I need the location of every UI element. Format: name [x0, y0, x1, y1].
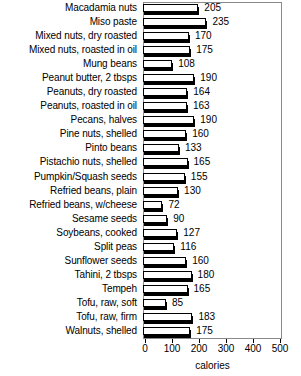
- bar-value-label: 175: [196, 44, 213, 55]
- bar-face: [143, 4, 198, 12]
- bar-row: 127: [143, 229, 282, 243]
- bar-face: [143, 299, 166, 307]
- bar-row: 133: [143, 144, 282, 158]
- bar-face: [143, 201, 162, 209]
- bar-value-label: 170: [195, 30, 212, 41]
- x-axis-tick-label: 400: [245, 343, 262, 354]
- category-label: Sesame seeds: [0, 213, 140, 224]
- bar-face: [143, 327, 190, 335]
- bar-face: [143, 88, 187, 96]
- bar-face: [143, 187, 178, 195]
- bar-value-label: 175: [196, 325, 213, 336]
- bar-value-label: 165: [194, 283, 211, 294]
- bar-value-label: 130: [184, 185, 201, 196]
- category-label: Soybeans, cooked: [0, 227, 140, 238]
- bar-value-label: 90: [173, 213, 184, 224]
- bar-row: 90: [143, 215, 282, 229]
- category-label: Tempeh: [0, 283, 140, 294]
- category-label: Split peas: [0, 241, 140, 252]
- bar-face: [143, 215, 167, 223]
- bar-row: 180: [143, 271, 282, 285]
- bar-row: 175: [143, 46, 282, 60]
- x-axis: 0100200300400500: [143, 339, 282, 353]
- bar-row: 164: [143, 88, 282, 102]
- bar-value-label: 164: [193, 86, 210, 97]
- category-label: Sunflower seeds: [0, 255, 140, 266]
- bar-value-label: 165: [194, 156, 211, 167]
- bar-face: [143, 313, 192, 321]
- bar-face: [143, 158, 188, 166]
- bar-value-label: 205: [204, 2, 221, 13]
- category-label: Refried beans, plain: [0, 185, 140, 196]
- bar-face: [143, 116, 194, 124]
- bar-face: [143, 130, 186, 138]
- category-label: Mixed nuts, dry roasted: [0, 30, 140, 41]
- bar-face: [143, 60, 172, 68]
- category-label: Tahini, 2 tbsps: [0, 269, 140, 280]
- bar-row: 155: [143, 173, 282, 187]
- bar-value-label: 190: [200, 114, 217, 125]
- category-label: Pistachio nuts, shelled: [0, 156, 140, 167]
- bar-row: 235: [143, 18, 282, 32]
- bar-face: [143, 46, 190, 54]
- category-label: Tofu, raw, soft: [0, 297, 140, 308]
- bar-face: [143, 173, 185, 181]
- category-label: Miso paste: [0, 16, 140, 27]
- category-label: Mixed nuts, roasted in oil: [0, 44, 140, 55]
- bar-value-label: 85: [172, 297, 183, 308]
- bar-row: 190: [143, 74, 282, 88]
- category-label: Peanuts, dry roasted: [0, 86, 140, 97]
- bar-row: 160: [143, 130, 282, 144]
- bar-row: 72: [143, 201, 282, 215]
- bar-face: [143, 271, 192, 279]
- category-label: Macadamia nuts: [0, 2, 140, 13]
- category-label: Pinto beans: [0, 142, 140, 153]
- bar-value-label: 116: [180, 241, 196, 252]
- x-axis-tick-label: 0: [142, 343, 148, 354]
- bar-face: [143, 18, 206, 26]
- bar-row: 116: [143, 243, 282, 257]
- bar-value-label: 155: [191, 171, 208, 182]
- bar-value-label: 133: [185, 142, 202, 153]
- bar-value-label: 163: [193, 100, 210, 111]
- bar-value-label: 72: [168, 199, 179, 210]
- bar-face: [143, 229, 177, 237]
- x-axis-tick-label: 500: [272, 343, 289, 354]
- x-axis-tick-label: 300: [218, 343, 235, 354]
- category-label: Tofu, raw, firm: [0, 311, 140, 322]
- bar-face: [143, 243, 174, 251]
- bars-layer: 2052351701751081901641631901601331651551…: [143, 2, 282, 339]
- category-label: Refried beans, w/cheese: [0, 199, 140, 210]
- category-label: Peanut butter, 2 tbsps: [0, 72, 140, 83]
- bar-value-label: 108: [178, 58, 195, 69]
- bar-row: 165: [143, 158, 282, 172]
- category-label: Pecans, halves: [0, 114, 140, 125]
- bar-value-label: 235: [212, 16, 229, 27]
- bar-face: [143, 257, 186, 265]
- bar-face: [143, 74, 194, 82]
- bar-value-label: 127: [183, 227, 200, 238]
- bar-face: [143, 285, 188, 293]
- bar-value-label: 160: [192, 255, 209, 266]
- x-axis-tick-label: 200: [191, 343, 208, 354]
- bar-face: [143, 102, 187, 110]
- category-label: Walnuts, shelled: [0, 325, 140, 336]
- bar-face: [143, 32, 189, 40]
- bar-row: 130: [143, 187, 282, 201]
- category-label: Mung beans: [0, 58, 140, 69]
- bar-row: 165: [143, 285, 282, 299]
- x-axis-tick-label: 100: [164, 343, 181, 354]
- bar-value-label: 183: [198, 311, 215, 322]
- bar-value-label: 180: [198, 269, 215, 280]
- category-label: Peanuts, roasted in oil: [0, 100, 140, 111]
- category-label: Pine nuts, shelled: [0, 128, 140, 139]
- bar-face: [143, 144, 179, 152]
- x-axis-title: calories: [143, 360, 282, 371]
- bar-value-label: 190: [200, 72, 217, 83]
- bar-row: 190: [143, 116, 282, 130]
- calories-bar-chart: Macadamia nutsMiso pasteMixed nuts, dry …: [0, 0, 301, 376]
- category-label: Pumpkin/Squash seeds: [0, 171, 140, 182]
- bar-value-label: 160: [192, 128, 209, 139]
